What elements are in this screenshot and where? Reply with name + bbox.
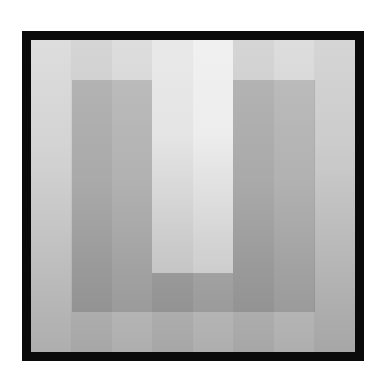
u-inner-light-region: [152, 40, 233, 273]
picture-frame: [22, 31, 364, 361]
artwork-canvas: [31, 40, 355, 352]
